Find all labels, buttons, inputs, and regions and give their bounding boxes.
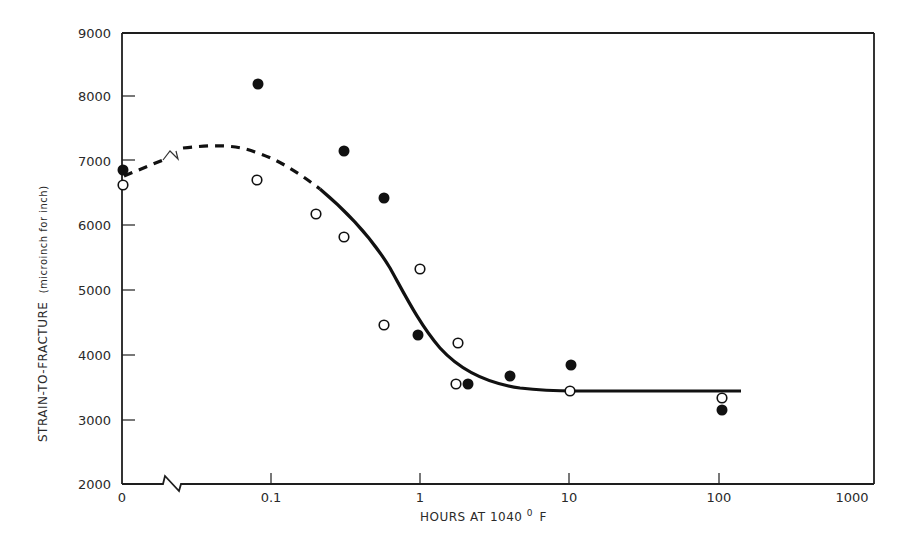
x-axis-title-degree: 0 — [527, 508, 533, 518]
x-axis-line-with-break — [122, 476, 874, 491]
data-point-open — [311, 209, 321, 219]
y-tick-label: 7000 — [78, 154, 111, 169]
x-tick-labels: 0 0.1 1 10 100 1000 — [118, 490, 869, 505]
data-point-filled — [379, 193, 390, 204]
data-point-open — [118, 180, 128, 190]
data-point-open — [717, 393, 727, 403]
plot-frame — [122, 33, 874, 491]
y-axis-title: STRAIN-TO-FRACTURE (microinch for inch) — [36, 185, 50, 442]
x-tick-label: 1 — [416, 490, 424, 505]
y-tick-label: 4000 — [78, 348, 111, 363]
y-tick-label: 9000 — [78, 26, 111, 41]
x-axis-title-prefix: HOURS AT 1040 — [420, 510, 522, 524]
data-point-open — [453, 338, 463, 348]
x-ticks — [271, 473, 719, 484]
x-tick-label: 0 — [118, 490, 126, 505]
fit-curve-solid — [320, 189, 741, 391]
y-tick-labels: 9000 8000 7000 6000 5000 4000 3000 2000 — [78, 26, 111, 492]
series-open-circles — [118, 175, 727, 403]
data-point-open — [252, 175, 262, 185]
x-tick-label: 0.1 — [261, 490, 282, 505]
data-point-open — [451, 379, 461, 389]
series-filled-circles — [118, 79, 728, 416]
data-point-filled — [566, 360, 577, 371]
y-tick-label: 2000 — [78, 477, 111, 492]
y-ticks — [122, 96, 135, 420]
data-point-open — [415, 264, 425, 274]
y-axis-title-main: STRAIN-TO-FRACTURE — [36, 302, 50, 442]
data-point-filled — [413, 330, 424, 341]
x-axis-title-suffix: F — [539, 510, 546, 524]
data-point-filled — [339, 146, 350, 157]
data-point-open — [339, 232, 349, 242]
x-axis-title: HOURS AT 1040 0 F — [420, 505, 547, 524]
x-tick-label: 1000 — [835, 490, 868, 505]
curve-break-symbol — [163, 151, 178, 160]
y-axis-title-units: (microinch for inch) — [38, 185, 49, 293]
y-tick-label: 3000 — [78, 413, 111, 428]
data-point-filled — [253, 79, 264, 90]
data-point-filled — [463, 379, 474, 390]
data-point-open — [565, 386, 575, 396]
data-point-filled — [505, 371, 516, 382]
y-tick-label: 6000 — [78, 218, 111, 233]
x-tick-label: 100 — [707, 490, 732, 505]
chart-canvas: 9000 8000 7000 6000 5000 4000 3000 2000 … — [0, 0, 905, 548]
fit-curve-dashed — [124, 146, 320, 189]
y-tick-label: 5000 — [78, 283, 111, 298]
data-point-open — [379, 320, 389, 330]
y-tick-label: 8000 — [78, 89, 111, 104]
x-tick-label: 10 — [561, 490, 578, 505]
data-point-filled — [717, 405, 728, 416]
data-point-filled — [118, 165, 129, 176]
